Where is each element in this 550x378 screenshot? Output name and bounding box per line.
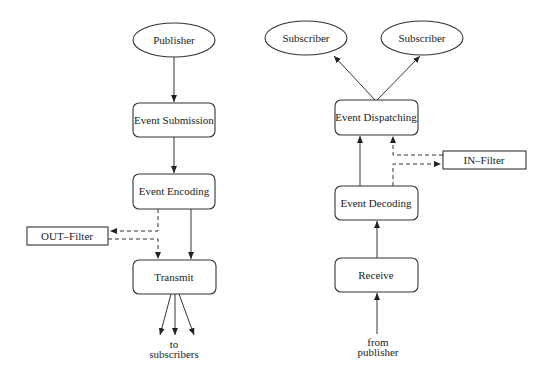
event-dispatching-node: Event Dispatching bbox=[335, 100, 418, 135]
out-filter-label: OUT–Filter bbox=[41, 230, 93, 242]
transmit-node: Transmit bbox=[133, 260, 216, 294]
in-filter-node: IN–Filter bbox=[443, 151, 526, 169]
event-decoding-label: Event Decoding bbox=[340, 197, 412, 209]
out-filter-node: OUT–Filter bbox=[27, 227, 108, 245]
arrow-dispatching-to-subscriber-1 bbox=[334, 56, 375, 100]
receive-node: Receive bbox=[335, 258, 418, 292]
arrow-transmit-out-3 bbox=[179, 294, 194, 335]
receive-label: Receive bbox=[358, 269, 394, 281]
dashed-arrow-in-filter-to-dispatching bbox=[393, 136, 443, 155]
in-filter-label: IN–Filter bbox=[464, 154, 505, 166]
event-encoding-label: Event Encoding bbox=[139, 185, 210, 197]
subscriber-1-label: Subscriber bbox=[282, 32, 329, 44]
publisher-source-label: publisher bbox=[358, 346, 399, 358]
dashed-arrow-encoding-to-out-filter bbox=[110, 209, 158, 231]
subscribers-label: subscribers bbox=[149, 348, 199, 360]
publish-subscribe-diagram: Publisher Event Submission Event Encodin… bbox=[0, 0, 550, 378]
event-submission-node: Event Submission bbox=[133, 103, 215, 137]
subscriber-node-2: Subscriber bbox=[381, 21, 463, 55]
subscriber-2-label: Subscriber bbox=[398, 32, 445, 44]
arrow-dispatching-to-subscriber-2 bbox=[377, 56, 420, 100]
subscriber-node-1: Subscriber bbox=[265, 21, 347, 55]
transmit-label: Transmit bbox=[154, 271, 193, 283]
event-dispatching-label: Event Dispatching bbox=[335, 111, 417, 123]
dashed-arrow-out-filter-to-transmit bbox=[108, 239, 158, 259]
arrow-transmit-out-1 bbox=[160, 294, 171, 335]
dashed-arrow-decoding-to-in-filter bbox=[393, 164, 441, 186]
event-decoding-node: Event Decoding bbox=[335, 186, 418, 220]
event-submission-label: Event Submission bbox=[134, 114, 214, 126]
event-encoding-node: Event Encoding bbox=[133, 174, 215, 209]
publisher-node: Publisher bbox=[133, 23, 215, 57]
publisher-label: Publisher bbox=[153, 34, 195, 46]
